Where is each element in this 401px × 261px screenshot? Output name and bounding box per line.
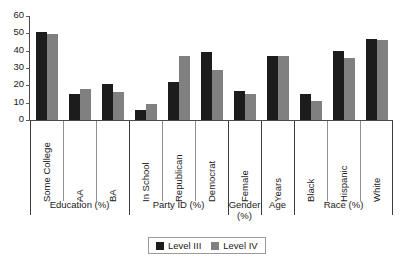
y-axis-tick-mark — [26, 120, 30, 121]
bar-group — [327, 16, 360, 120]
bar-group — [195, 16, 228, 120]
y-axis: 0102030405060 — [0, 14, 24, 120]
x-axis-group-label: Education (%) — [30, 200, 129, 211]
category-separator-line — [360, 121, 361, 201]
y-axis-tick-label: 60 — [0, 10, 24, 19]
bar — [69, 94, 80, 120]
x-axis-group-label: Gender (%) — [228, 200, 261, 221]
x-axis-category: AA — [63, 121, 96, 204]
x-axis-group-label: Race (%) — [294, 200, 393, 211]
x-axis-category: Years — [261, 121, 294, 204]
category-separator-line — [63, 121, 64, 201]
y-axis-tick-label: 50 — [0, 27, 24, 36]
legend-label: Level IV — [223, 240, 257, 251]
bar — [113, 92, 124, 120]
y-axis-tick-mark — [26, 51, 30, 52]
x-axis-category: Republican — [162, 121, 195, 204]
x-axis-category: Some College — [30, 121, 63, 204]
y-axis-tick-label: 40 — [0, 44, 24, 53]
bar-group — [261, 16, 294, 120]
y-axis-tick-mark — [26, 103, 30, 104]
bar — [135, 110, 146, 120]
bar-group — [96, 16, 129, 120]
category-separator-line — [327, 121, 328, 201]
bar-group — [129, 16, 162, 120]
legend-entry: Level III — [156, 240, 201, 251]
category-separator-line — [96, 121, 97, 201]
bar — [36, 32, 47, 120]
y-axis-tick-label: 0 — [0, 114, 24, 123]
legend-swatch-icon — [211, 242, 219, 250]
x-axis-category-label: White — [372, 178, 382, 202]
bar — [366, 39, 377, 120]
x-axis-category-label: In School — [141, 162, 151, 202]
category-separator-line — [162, 121, 163, 201]
x-axis-category-label: Republican — [174, 154, 184, 202]
category-separator-line — [195, 121, 196, 201]
legend-swatch-icon — [156, 242, 164, 250]
x-axis-category: Democrat — [195, 121, 228, 204]
bar-group — [162, 16, 195, 120]
bar — [333, 51, 344, 120]
bar — [300, 94, 311, 120]
x-axis-category: In School — [129, 121, 162, 204]
bar — [168, 82, 179, 120]
bar — [179, 56, 190, 120]
bar — [146, 104, 157, 120]
bar-group — [228, 16, 261, 120]
x-axis-category: Female — [228, 121, 261, 204]
y-axis-tick-mark — [26, 68, 30, 69]
bar — [278, 56, 289, 120]
y-axis-tick-mark — [26, 85, 30, 86]
y-axis-tick-label: 30 — [0, 62, 24, 71]
legend-entry: Level IV — [211, 240, 257, 251]
bar — [377, 40, 388, 120]
bar-group — [30, 16, 63, 120]
bar — [212, 70, 223, 120]
bar — [102, 84, 113, 120]
bar — [47, 34, 58, 120]
x-axis-category-label: Black — [306, 179, 316, 202]
x-axis-category: White — [360, 121, 393, 204]
y-axis-tick-label: 20 — [0, 79, 24, 88]
bar — [344, 58, 355, 120]
y-axis-tick-label: 10 — [0, 96, 24, 105]
x-axis-category-label: Some College — [42, 142, 52, 202]
x-axis-category: Black — [294, 121, 327, 204]
bar-group — [63, 16, 96, 120]
x-axis-category-label: Democrat — [207, 161, 217, 202]
y-axis-tick-mark — [26, 16, 30, 17]
y-axis-tick-mark — [26, 33, 30, 34]
x-axis-group-labels: Education (%)Party ID (%)Gender (%)AgeRa… — [30, 200, 393, 226]
legend: Level IIILevel IV — [148, 237, 266, 254]
bar — [311, 101, 322, 120]
bar — [245, 94, 256, 120]
bar — [80, 89, 91, 120]
bar — [267, 56, 278, 120]
x-axis-category-label: Hispanic — [339, 166, 349, 202]
plot-area — [30, 16, 393, 120]
x-axis-category: BA — [96, 121, 129, 204]
x-axis-group-label: Party ID (%) — [129, 200, 228, 211]
bar-chart: 0102030405060 Some CollegeAABAIn SchoolR… — [0, 0, 401, 261]
bar-group — [294, 16, 327, 120]
x-axis-category-labels: Some CollegeAABAIn SchoolRepublicanDemoc… — [30, 121, 393, 204]
x-axis-group-label: Age — [261, 200, 294, 211]
bar — [201, 52, 212, 120]
bar — [234, 91, 245, 120]
x-axis-category: Hispanic — [327, 121, 360, 204]
bar-group — [360, 16, 393, 120]
x-axis-category-label: Female — [240, 170, 250, 202]
legend-label: Level III — [168, 240, 201, 251]
